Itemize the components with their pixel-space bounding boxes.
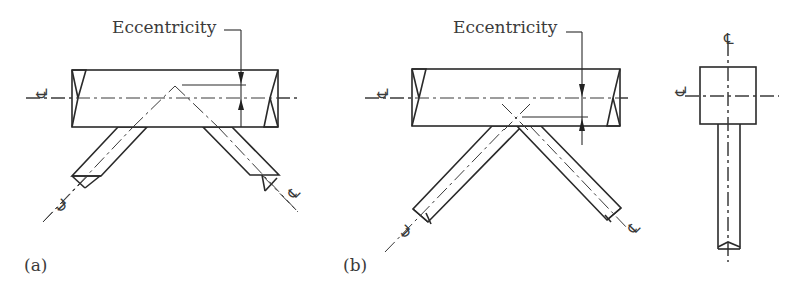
centerline-symbol-b-right: ℄: [623, 218, 644, 239]
centerline-symbol-side-horizontal: ℄: [672, 86, 690, 97]
chord-b: [365, 69, 628, 126]
right-brace-a: [203, 127, 298, 212]
centerline-symbol-b-chord: ℄: [374, 88, 392, 99]
side-view: [685, 42, 779, 262]
panel-a: [26, 30, 298, 222]
eccentricity-label-b: Eccentricity: [453, 17, 557, 37]
diagram-canvas: ℄ ℄ ℄ ℄ ℄ ℄ ℄ ℄: [0, 0, 798, 289]
chord-a: [26, 70, 298, 127]
centerline-symbol-a-chord: ℄: [33, 88, 51, 99]
panel-label-b: (b): [343, 255, 367, 275]
centerline-symbol-a-left: ℄: [51, 196, 72, 217]
truss-joint-eccentricity-figure: ℄ ℄ ℄ ℄ ℄ ℄ ℄ ℄ Eccentricity Eccentricit…: [0, 0, 798, 289]
right-brace-b: [517, 126, 628, 229]
panel-label-a: (a): [24, 255, 47, 275]
centerline-symbol-side-vertical: ℄: [723, 30, 734, 48]
eccentricity-label-a: Eccentricity: [112, 17, 216, 37]
panel-b: [365, 32, 628, 252]
vertical-brace: [718, 124, 740, 249]
